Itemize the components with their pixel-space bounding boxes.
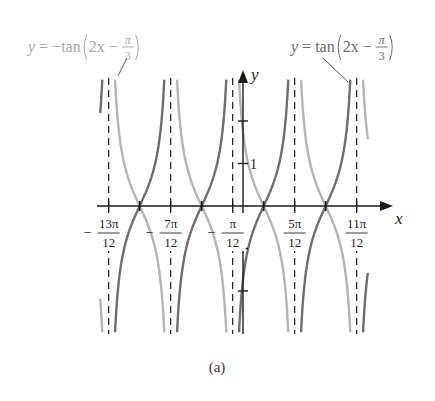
x-tick-label-sign: − xyxy=(208,225,216,240)
x-axis-arrow-icon xyxy=(380,201,393,211)
x-tick-label-sign: − xyxy=(84,225,92,240)
x-tick-label-numerator: 11π xyxy=(347,216,367,231)
label-tan-frac-num: π xyxy=(379,33,386,47)
label-neg-tan-leader xyxy=(118,58,127,76)
tangent-graph: xy113π12−7π12−π12−5π1211π12 y = −tan2x −… xyxy=(0,0,435,401)
x-tick-label-denominator: 12 xyxy=(102,235,115,250)
x-tick-label-numerator: 13π xyxy=(99,216,119,231)
label-neg-tan-inner: 2x − xyxy=(89,38,118,55)
label-neg-tan-text: y = −tan xyxy=(26,38,81,56)
label-neg-tan-frac-num: π xyxy=(125,33,132,47)
curve-labels: y = −tan2x −π3y = tan2x −π3 xyxy=(26,33,392,82)
x-tick-label-denominator: 12 xyxy=(288,235,301,250)
x-axis-label: x xyxy=(394,209,403,228)
curve-neg-tan-branch xyxy=(363,80,368,139)
label-tan-text: y = tan xyxy=(289,38,335,56)
x-tick-label-numerator: π xyxy=(229,216,236,231)
x-tick-label-numerator: 5π xyxy=(288,216,302,231)
y-axis-label: y xyxy=(249,65,259,84)
x-tick-label-sign: − xyxy=(146,225,154,240)
curve-tan-branch xyxy=(363,273,368,332)
label-tan-frac-den: 3 xyxy=(379,49,385,63)
figure-caption: (a) xyxy=(209,359,226,376)
x-tick-label-denominator: 12 xyxy=(164,235,177,250)
x-tick-label-numerator: 7π xyxy=(164,216,178,231)
y-tick-label: 1 xyxy=(250,157,257,172)
curve-tan-branch xyxy=(100,80,102,113)
x-tick-label-denominator: 12 xyxy=(350,235,363,250)
y-axis-arrow-icon xyxy=(238,70,248,83)
x-tick-label-denominator: 12 xyxy=(226,235,239,250)
curve-neg-tan-branch xyxy=(100,299,102,332)
label-tan-inner: 2x − xyxy=(343,38,372,55)
label-tan-leader xyxy=(323,58,348,82)
